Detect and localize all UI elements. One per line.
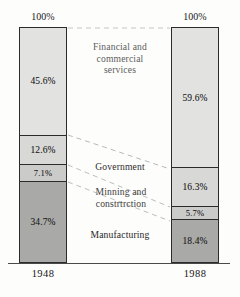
category-label-government: Government [72,161,168,173]
segment-financial-1988[interactable]: 59.6% [172,28,218,167]
segment-value-label: 5.7% [186,208,204,218]
category-label-line: commercial [72,53,168,65]
category-label-line: constrtrction [70,198,172,210]
x-axis-tick-label-1988: 1988 [163,268,227,279]
bar-column-1948: 100% 45.6% 12.6% 7.1% 34.7% 1948 [19,27,67,263]
category-label-line: Minning and [70,186,172,198]
segment-value-label: 59.6% [182,93,207,103]
segment-value-label: 34.7% [30,217,55,227]
category-label-line: Financial and [72,41,168,53]
segment-government-1988[interactable]: 16.3% [172,167,218,205]
segment-manufacturing-1948[interactable]: 34.7% [20,181,66,262]
bar-column-1988: 100% 59.6% 16.3% 5.7% 18.4% 1988 [171,27,219,263]
segment-value-label: 16.3% [182,182,207,192]
segment-value-label: 18.4% [182,236,207,246]
segment-manufacturing-1988[interactable]: 18.4% [172,219,218,262]
segment-mining-1948[interactable]: 7.1% [20,164,66,181]
total-label-1988: 100% [171,11,219,22]
category-label-line: services [72,64,168,76]
x-axis-baseline [8,263,230,264]
bar-stack-1948: 45.6% 12.6% 7.1% 34.7% [19,27,67,263]
segment-value-label: 12.6% [30,145,55,155]
category-label-mining: Minning and constrtrction [70,186,172,209]
segment-mining-1988[interactable]: 5.7% [172,206,218,219]
total-label-1948: 100% [19,11,67,22]
segment-value-label: 45.6% [30,76,55,86]
category-label-manufacturing: Manufacturing [72,229,168,241]
category-label-financial: Financial and commercial services [72,41,168,76]
stacked-bar-chart: 100% 45.6% 12.6% 7.1% 34.7% 1948 100% 59… [0,0,240,297]
segment-financial-1948[interactable]: 45.6% [20,28,66,135]
segment-government-1948[interactable]: 12.6% [20,135,66,164]
x-axis-tick-label-1948: 1948 [11,268,75,279]
bar-stack-1988: 59.6% 16.3% 5.7% 18.4% [171,27,219,263]
segment-value-label: 7.1% [34,168,52,178]
